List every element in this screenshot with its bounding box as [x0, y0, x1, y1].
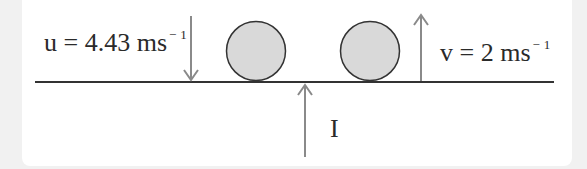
- u-equals: =: [64, 28, 79, 57]
- initial-velocity-label: u = 4.43 ms−1: [44, 30, 187, 56]
- impulse-label: I: [330, 116, 339, 142]
- v-exponent-sign: −: [533, 37, 540, 52]
- u-unit: ms: [137, 28, 167, 57]
- v-equals: =: [460, 38, 475, 67]
- impulse-arrow-icon: [298, 85, 312, 157]
- u-symbol: u: [44, 28, 57, 57]
- ball-after: [341, 22, 400, 81]
- u-exponent-sign: −: [169, 27, 176, 42]
- v-exponent: 1: [544, 37, 551, 52]
- u-exponent: 1: [180, 27, 187, 42]
- final-velocity-label: v = 2 ms−1: [440, 40, 550, 66]
- ball-before: [227, 22, 286, 81]
- v-value: 2: [481, 38, 494, 67]
- u-value: 4.43: [85, 28, 131, 57]
- v-unit: ms: [500, 38, 530, 67]
- arrow-up-icon: [414, 15, 428, 81]
- v-symbol: v: [440, 38, 453, 67]
- diagram-canvas: [0, 0, 587, 169]
